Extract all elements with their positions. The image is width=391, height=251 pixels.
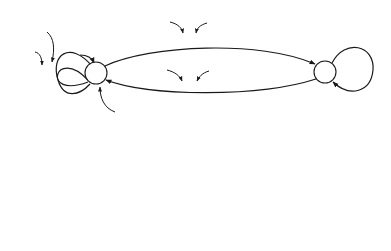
out-pointer-top — [196, 23, 207, 33]
self-loop-0-branch — [57, 68, 88, 86]
state-node-1 — [314, 61, 336, 83]
state-pointer-left — [100, 87, 115, 112]
transition-0-to-1 — [105, 48, 315, 66]
transition-1-to-0 — [106, 79, 316, 93]
out-pointer-bottom — [197, 71, 209, 81]
in-pointer-bottom — [167, 70, 182, 81]
diagram-c — [0, 0, 373, 112]
in-pointer-left — [35, 52, 42, 65]
self-loop-1 — [332, 47, 373, 91]
out-pointer-left — [47, 32, 54, 62]
state-node-0 — [85, 62, 107, 84]
in-pointer-top — [170, 22, 183, 33]
state-diagrams — [0, 0, 391, 251]
